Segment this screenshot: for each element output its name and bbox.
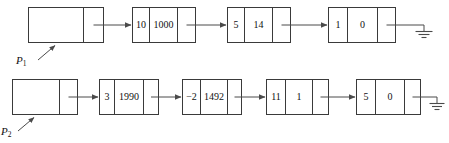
header-box-outline xyxy=(29,8,104,43)
list-1-node-1: 10 1000 xyxy=(133,8,196,43)
list-1-header-box xyxy=(29,8,104,43)
list-2-node-4: 5 0 xyxy=(357,80,421,115)
list-1-node-2: 5 14 xyxy=(228,8,291,43)
pointer-label-subscript: 2 xyxy=(8,130,12,139)
list-1-pointer-annotation: P1 xyxy=(15,46,55,69)
node-exponent-text: 1000 xyxy=(154,19,174,30)
node-exponent-text: 0 xyxy=(360,19,365,30)
node-exponent-text: 1990 xyxy=(119,91,139,102)
list-2-node-1: 3 1990 xyxy=(100,80,159,115)
node-exponent-text: 14 xyxy=(254,19,264,30)
node-coefficient-text: 5 xyxy=(364,91,369,102)
pointer-leader-arrow xyxy=(18,118,34,132)
diagram-canvas: P1 10 1000 5 14 xyxy=(0,0,449,143)
node-coefficient-text: 10 xyxy=(136,19,146,30)
node-exponent-text: 1492 xyxy=(204,91,224,102)
pointer-label-p2: P2 xyxy=(0,125,12,140)
node-coefficient-text: 11 xyxy=(271,91,281,102)
pointer-label-subscript: 1 xyxy=(23,59,27,68)
list-1-group: P1 10 1000 5 14 xyxy=(15,8,433,69)
list-2-header-box xyxy=(13,80,78,115)
node-exponent-text: 1 xyxy=(297,91,302,102)
list-2-node-2: −2 1492 xyxy=(183,80,242,115)
list-2-group: P2 3 1990 −2 1492 xyxy=(0,80,445,140)
node-coefficient-text: −2 xyxy=(186,91,197,102)
node-coefficient-text: 5 xyxy=(234,19,239,30)
list-2-node-3: 11 1 xyxy=(267,80,329,115)
header-box-outline xyxy=(13,80,78,115)
node-exponent-text: 0 xyxy=(388,91,393,102)
node-coefficient-text: 3 xyxy=(105,91,110,102)
node-coefficient-text: 1 xyxy=(336,19,341,30)
linked-list-diagram: P1 10 1000 5 14 xyxy=(0,0,449,143)
pointer-label-p1: P1 xyxy=(15,54,27,69)
pointer-leader-arrow xyxy=(38,46,55,61)
list-2-pointer-annotation: P2 xyxy=(0,118,34,140)
list-1-node-3: 1 0 xyxy=(329,8,396,43)
